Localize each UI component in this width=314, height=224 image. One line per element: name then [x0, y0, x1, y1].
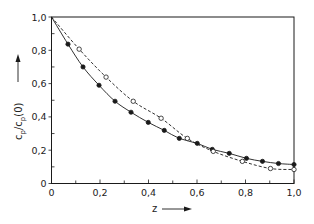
- plot-frame: [52, 17, 295, 184]
- y-tick-label: 1,0: [31, 12, 46, 23]
- x-tick-label: 0,2: [92, 187, 107, 198]
- filled-circle-marker-icon: [162, 128, 166, 132]
- y-tick-label: 0,6: [31, 78, 46, 89]
- x-tick-label: 1,0: [286, 187, 301, 198]
- filled-circle-marker-icon: [177, 136, 181, 140]
- open-circle-marker-icon: [240, 159, 244, 163]
- filled-circle-marker-icon: [244, 156, 248, 160]
- filled-circle-marker-icon: [260, 159, 264, 163]
- filled-circle-marker-icon: [66, 42, 70, 46]
- open-circle-marker-icon: [159, 116, 163, 120]
- y-label-tail: (0): [13, 102, 24, 116]
- open-circle-marker-icon: [292, 167, 296, 171]
- y-axis-label: cp/cp(0): [13, 54, 27, 140]
- x-axis-ticks: 00,20,40,60,81,0: [48, 180, 301, 198]
- open-circle-marker-icon: [211, 149, 215, 153]
- filled-circle-marker-icon: [113, 99, 117, 103]
- x-axis-label-text: z: [152, 203, 157, 214]
- y-tick-label: 0,2: [31, 145, 46, 156]
- y-tick-label: 0,8: [31, 45, 46, 56]
- chart: 00,20,40,60,81,0 00,20,40,60,81,0 z cp/c…: [0, 0, 314, 224]
- y-tick-label: 0,4: [31, 111, 46, 122]
- open-circle-marker-icon: [77, 47, 81, 51]
- filled-circle-marker-icon: [227, 151, 231, 155]
- x-tick-label: 0,8: [238, 187, 253, 198]
- series-line: [52, 17, 295, 165]
- y-axis-arrowhead-icon: [16, 54, 21, 62]
- y-tick-label: 0: [40, 178, 46, 189]
- filled-circle-marker-icon: [292, 162, 296, 166]
- x-tick-label: 0,4: [141, 187, 156, 198]
- open-circle-marker-icon: [131, 99, 135, 103]
- series-open: [52, 17, 297, 172]
- filled-circle-marker-icon: [81, 65, 85, 69]
- x-tick-label: 0: [48, 187, 54, 198]
- open-circle-marker-icon: [185, 136, 189, 140]
- series-filled: [52, 17, 297, 167]
- filled-circle-marker-icon: [97, 83, 101, 87]
- x-axis-arrowhead-icon: [184, 207, 192, 212]
- x-axis-label: z: [152, 203, 192, 214]
- svg-text:cp/cp(0): cp/cp(0): [13, 102, 27, 140]
- y-label-slash: /c: [13, 121, 24, 130]
- plot-border: [52, 17, 295, 184]
- x-tick-label: 0,6: [189, 187, 204, 198]
- series-layer: [52, 17, 297, 172]
- filled-circle-marker-icon: [276, 161, 280, 165]
- filled-circle-marker-icon: [129, 110, 133, 114]
- open-circle-marker-icon: [268, 166, 272, 170]
- series-line: [52, 17, 295, 170]
- open-circle-marker-icon: [104, 75, 108, 79]
- filled-circle-marker-icon: [146, 120, 150, 124]
